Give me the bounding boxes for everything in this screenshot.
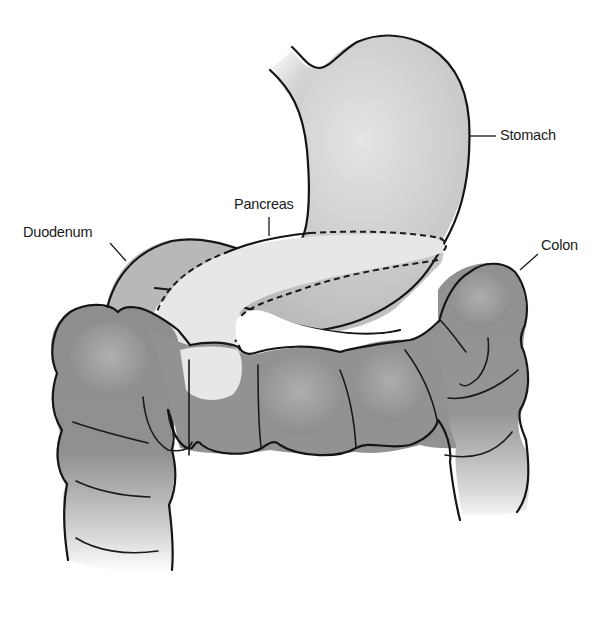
label-stomach: Stomach bbox=[500, 127, 556, 143]
colon-leader-line bbox=[520, 254, 538, 270]
duodenum-leader-line bbox=[110, 243, 126, 261]
anatomy-diagram bbox=[0, 0, 603, 620]
label-colon: Colon bbox=[541, 237, 578, 253]
label-duodenum: Duodenum bbox=[23, 224, 92, 240]
label-pancreas: Pancreas bbox=[234, 196, 294, 212]
